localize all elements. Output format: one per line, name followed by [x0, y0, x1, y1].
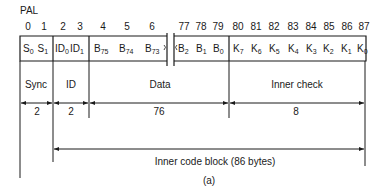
cell-data: B73	[145, 43, 160, 55]
byte-index: 83	[287, 21, 299, 32]
field-length-check: 8	[293, 106, 299, 117]
byte-index: 4	[100, 21, 106, 32]
field-length-data: 76	[153, 106, 165, 117]
cell-data: B75	[94, 43, 109, 55]
cell-data: B74	[119, 43, 134, 55]
byte-index: 78	[195, 21, 207, 32]
byte-index: 77	[178, 21, 190, 32]
cell-data: B2	[178, 43, 189, 55]
field-name-inner-check: Inner check	[271, 79, 324, 90]
byte-index: 81	[250, 21, 262, 32]
cell-check: K1	[341, 43, 352, 55]
field-length-id: 2	[68, 106, 74, 117]
cell-check: K6	[251, 43, 262, 55]
field-name-id: ID	[66, 79, 76, 90]
byte-index: 1	[41, 21, 47, 32]
cell-labels: S0S1 ID0ID1 B75 B74 B73 B2 B1 B0 K7 K6 K…	[23, 43, 368, 55]
cell-check: K5	[269, 43, 280, 55]
inner-block-label: Inner code block (86 bytes)	[155, 156, 276, 167]
field-lengths: 2 2 76 8	[34, 106, 299, 117]
diagram-title: PAL	[20, 5, 39, 16]
byte-index: 84	[305, 21, 317, 32]
field-length-sync: 2	[34, 106, 40, 117]
byte-index: 79	[212, 21, 224, 32]
cell-id: ID0ID1	[55, 43, 84, 55]
cell-data: B1	[196, 43, 207, 55]
cell-sync: S0S1	[23, 43, 48, 55]
field-names: Sync ID Data Inner check	[25, 79, 324, 90]
field-name-sync: Sync	[25, 79, 47, 90]
cell-check: K4	[288, 43, 299, 55]
byte-index-row: 0 1 2 3 4 5 6 77 78 79 80 81 82 83 84 85…	[25, 21, 370, 32]
byte-index: 82	[268, 21, 280, 32]
cell-check: K2	[323, 43, 334, 55]
byte-index: 6	[149, 21, 155, 32]
cell-check: K3	[306, 43, 317, 55]
byte-index: 85	[323, 21, 335, 32]
byte-index: 87	[358, 21, 370, 32]
byte-index: 80	[232, 21, 244, 32]
byte-index: 3	[77, 21, 83, 32]
pal-inner-code-block-diagram: PAL 0 1 2 3 4 5 6 77 78 79 80 81 82 83 8…	[0, 0, 386, 195]
byte-index: 86	[341, 21, 353, 32]
figure-caption: (a)	[203, 175, 215, 186]
byte-index: 0	[25, 21, 31, 32]
byte-index: 5	[124, 21, 130, 32]
cell-data: B0	[213, 43, 224, 55]
field-name-data: Data	[149, 79, 171, 90]
cell-check: K7	[233, 43, 244, 55]
byte-index: 2	[60, 21, 66, 32]
